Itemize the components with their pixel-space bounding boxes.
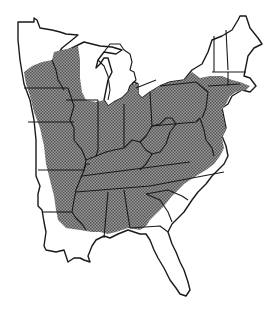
range-map (0, 0, 278, 317)
map-svg (0, 0, 278, 317)
